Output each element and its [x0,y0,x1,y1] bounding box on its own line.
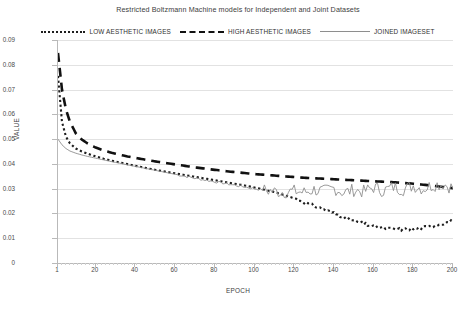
y-tick-label: 0.09 [0,36,15,43]
x-tick-label: 40 [114,266,154,273]
x-tick-minor [188,263,189,265]
x-tick-minor [351,263,352,265]
y-tick-mark [52,114,57,115]
x-tick-minor [85,263,86,265]
x-tick-minor [128,263,129,265]
x-tick-label: 180 [392,266,432,273]
x-tick-label: 160 [353,266,393,273]
y-tick-mark [52,164,57,165]
x-tick-minor [271,263,272,265]
x-tick-minor [144,263,145,265]
x-tick-label: 20 [75,266,115,273]
x-tick-minor [228,263,229,265]
x-tick-label: 140 [313,266,353,273]
x-tick-minor [343,263,344,265]
x-tick-minor [283,263,284,265]
y-tick-label: 0.06 [0,110,15,117]
x-tick-minor [124,263,125,265]
x-tick-minor [371,263,372,265]
x-tick-minor [89,263,90,265]
x-tick-minor [224,263,225,265]
x-tick-minor [291,263,292,265]
x-tick-minor [418,263,419,265]
x-tick-minor [303,263,304,265]
x-tick-label: 80 [194,266,234,273]
x-tick-minor [367,263,368,265]
x-tick-minor [212,263,213,265]
legend-swatch-dashed-icon [180,31,224,33]
legend-item-high-aesthetic-images: HIGH AESTHETIC IMAGES [180,28,311,35]
x-tick-minor [81,263,82,265]
x-tick-minor [136,263,137,265]
x-tick-minor [323,263,324,265]
x-tick-minor [383,263,384,265]
x-tick-minor [77,263,78,265]
x-tick-minor [406,263,407,265]
y-tick-mark [52,65,57,66]
y-tick-mark [52,213,57,214]
y-tick-label: 0.07 [0,86,15,93]
x-tick-minor [248,263,249,265]
x-tick-minor [434,263,435,265]
x-tick-minor [402,263,403,265]
y-tick-label: 0.05 [0,135,15,142]
x-tick-minor [172,263,173,265]
y-tick-label: 0.02 [0,209,15,216]
chart-container: Restricted Boltzmann Machine models for … [0,0,476,317]
x-tick-minor [327,263,328,265]
x-tick-minor [430,263,431,265]
x-tick-label: 200 [432,266,472,273]
x-tick-minor [347,263,348,265]
x-tick-minor [331,263,332,265]
x-tick-minor [140,263,141,265]
x-tick-minor [220,263,221,265]
x-tick-minor [279,263,280,265]
legend-label-low-aesthetic-images: LOW AESTHETIC IMAGES [89,28,170,35]
x-tick-label: 60 [154,266,194,273]
series-layer [58,40,453,263]
x-tick-minor [259,263,260,265]
y-tick-mark [52,238,57,239]
x-tick-minor [148,263,149,265]
x-tick-minor [93,263,94,265]
x-tick-minor [446,263,447,265]
x-tick-minor [339,263,340,265]
x-tick-minor [160,263,161,265]
x-tick-minor [73,263,74,265]
legend-swatch-dotted-icon [41,31,85,33]
x-tick-minor [450,263,451,265]
series-line-high-aesthetic-images [58,53,453,188]
x-axis-title: EPOCH [0,287,476,294]
x-tick-minor [422,263,423,265]
x-tick-minor [156,263,157,265]
x-tick-minor [255,263,256,265]
x-tick-minor [355,263,356,265]
x-tick-minor [152,263,153,265]
legend-label-high-aesthetic-images: HIGH AESTHETIC IMAGES [228,28,311,35]
x-tick-minor [105,263,106,265]
x-tick-minor [363,263,364,265]
x-tick-minor [295,263,296,265]
x-tick-minor [176,263,177,265]
x-tick-minor [335,263,336,265]
x-tick-minor [410,263,411,265]
series-line-low-aesthetic-images [58,76,453,231]
legend-item-low-aesthetic-images: LOW AESTHETIC IMAGES [41,28,170,35]
x-tick-minor [307,263,308,265]
x-tick-minor [204,263,205,265]
x-tick-minor [287,263,288,265]
x-tick-minor [375,263,376,265]
x-tick-minor [240,263,241,265]
x-tick-minor [109,263,110,265]
x-tick-minor [184,263,185,265]
x-tick-minor [299,263,300,265]
x-tick-minor [121,263,122,265]
y-tick-mark [52,90,57,91]
y-tick-mark [52,139,57,140]
legend-label-joined-imageset: JOINED IMAGESET [374,28,434,35]
y-tick-mark [52,40,57,41]
x-tick-minor [164,263,165,265]
x-tick-minor [192,263,193,265]
x-tick-label: 100 [234,266,274,273]
x-tick-minor [438,263,439,265]
